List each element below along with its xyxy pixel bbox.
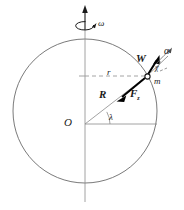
label-chi-angle: χ: [155, 64, 159, 72]
diagram-canvas: [0, 0, 184, 210]
label-omega: ω: [98, 19, 104, 28]
label-force-vector: Fz: [130, 88, 140, 101]
label-radius-big: R: [99, 89, 106, 100]
label-origin: O: [64, 117, 72, 128]
label-latitude-angle: λ: [109, 113, 113, 122]
label-weight-vector: W: [136, 53, 146, 64]
particle-m-marker: [145, 74, 150, 79]
label-particle-mass: m: [154, 77, 161, 86]
physics-diagram-rotating-earth: ω α W χ m r R Fz λ O: [0, 0, 184, 210]
outward-direction-dash: [160, 68, 167, 71]
rotation-axis-arrowhead: [82, 5, 88, 13]
label-force-subscript: z: [137, 95, 139, 101]
label-alpha: α: [164, 46, 169, 56]
label-radius-small: r: [107, 68, 111, 77]
